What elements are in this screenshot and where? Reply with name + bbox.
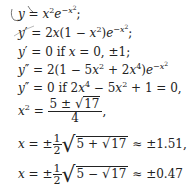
denominator: 2 <box>53 175 62 186</box>
equation-x-squared: x2 = 5 ± √17 4 , <box>18 97 106 125</box>
equation-x-minus-root: x = ±12√5 − √17 ≈ ±0.47 <box>18 163 183 186</box>
equation-y: y = x2e−x2; <box>18 7 81 21</box>
equation-inflection-condition: y″ = 0 if 2x4 − 5x2 + 1 = 0, <box>18 81 182 95</box>
half-fraction: 12 <box>53 163 62 186</box>
equation-critical-points: y′ = 0 if x = 0, ±1; <box>18 45 130 59</box>
half-fraction: 12 <box>53 133 62 156</box>
approx-value-2: ≈ ±0.47 <box>132 167 183 181</box>
equation-y-prime: y′ = 2x(1 − x2)e−x2; <box>18 26 132 40</box>
equation-y-double-prime: y″ = 2(1 − 5x2 + 2x4)e−x2 <box>18 63 168 77</box>
critical-values: 0, ±1; <box>93 45 130 59</box>
equation-x-plus-root: x = ±12√5 + √17 ≈ ±1.51, <box>18 133 187 156</box>
radicand: 17 <box>83 96 100 111</box>
denominator: 4 <box>48 112 103 125</box>
equation-rhs: + 1 = 0, <box>131 81 182 95</box>
fraction: 5 ± √17 4 <box>48 97 103 125</box>
if-text: if <box>58 81 66 95</box>
approx-value-1: ≈ ±1.51, <box>132 137 186 151</box>
numerator: 5 ± <box>50 97 75 111</box>
denominator: 2 <box>53 145 62 156</box>
if-text: if <box>57 45 65 59</box>
